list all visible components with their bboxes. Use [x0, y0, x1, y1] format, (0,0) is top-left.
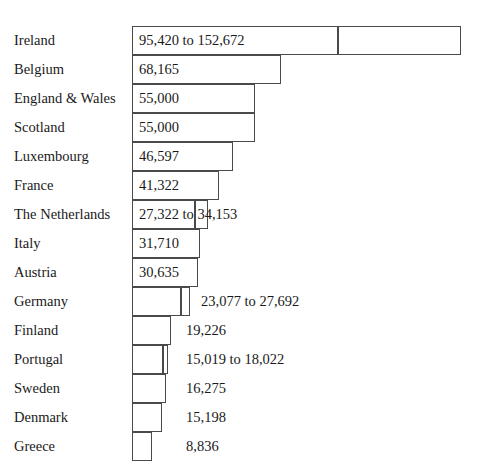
- chart-row: Sweden16,275: [0, 374, 485, 403]
- bar-segment-range-extension: [181, 287, 190, 316]
- value-label: 31,710: [139, 229, 179, 258]
- chart-row: The Netherlands27,322 to 34,153: [0, 200, 485, 229]
- category-label: The Netherlands: [14, 200, 110, 229]
- value-label: 55,000: [139, 84, 179, 113]
- chart-row: Scotland55,000: [0, 113, 485, 142]
- category-label: Austria: [14, 258, 57, 287]
- category-label: Portugal: [14, 345, 63, 374]
- value-label: 68,165: [139, 55, 179, 84]
- value-label: 19,226: [186, 316, 226, 345]
- category-label: Germany: [14, 287, 68, 316]
- bar-segment-main: [132, 316, 171, 345]
- bar-segment-main: [132, 345, 163, 374]
- category-label: Finland: [14, 316, 58, 345]
- chart-row: France41,322: [0, 171, 485, 200]
- chart-row: Belgium68,165: [0, 55, 485, 84]
- category-label: Italy: [14, 229, 41, 258]
- bar-chart: Ireland95,420 to 152,672Belgium68,165Eng…: [0, 0, 485, 474]
- value-label: 30,635: [139, 258, 179, 287]
- value-label: 8,836: [186, 432, 219, 461]
- value-label: 16,275: [186, 374, 226, 403]
- bar-segment-range-extension: [163, 345, 168, 374]
- bar-segment-main: [132, 403, 162, 432]
- chart-row: Ireland95,420 to 152,672: [0, 26, 485, 55]
- category-label: France: [14, 171, 53, 200]
- category-label: Denmark: [14, 403, 68, 432]
- chart-row: Luxembourg46,597: [0, 142, 485, 171]
- chart-row: Germany23,077 to 27,692: [0, 287, 485, 316]
- bar-segment-range-extension: [338, 26, 461, 55]
- category-label: Belgium: [14, 55, 64, 84]
- value-label: 15,019 to 18,022: [186, 345, 284, 374]
- bar-segment-main: [132, 287, 181, 316]
- bar-segment-main: [132, 374, 166, 403]
- value-label: 55,000: [139, 113, 179, 142]
- chart-row: Finland19,226: [0, 316, 485, 345]
- category-label: England & Wales: [14, 84, 116, 113]
- category-label: Luxembourg: [14, 142, 89, 171]
- category-label: Sweden: [14, 374, 60, 403]
- chart-row: Greece8,836: [0, 432, 485, 461]
- category-label: Scotland: [14, 113, 65, 142]
- chart-row: Denmark15,198: [0, 403, 485, 432]
- value-label: 15,198: [186, 403, 226, 432]
- value-label: 46,597: [139, 142, 179, 171]
- value-label: 27,322 to 34,153: [139, 200, 237, 229]
- chart-row: Italy31,710: [0, 229, 485, 258]
- value-label: 95,420 to 152,672: [139, 26, 245, 55]
- chart-row: England & Wales55,000: [0, 84, 485, 113]
- category-label: Ireland: [14, 26, 55, 55]
- value-label: 41,322: [139, 171, 179, 200]
- value-label: 23,077 to 27,692: [201, 287, 299, 316]
- chart-row: Portugal15,019 to 18,022: [0, 345, 485, 374]
- category-label: Greece: [14, 432, 55, 461]
- bar-segment-main: [132, 432, 152, 461]
- chart-row: Austria30,635: [0, 258, 485, 287]
